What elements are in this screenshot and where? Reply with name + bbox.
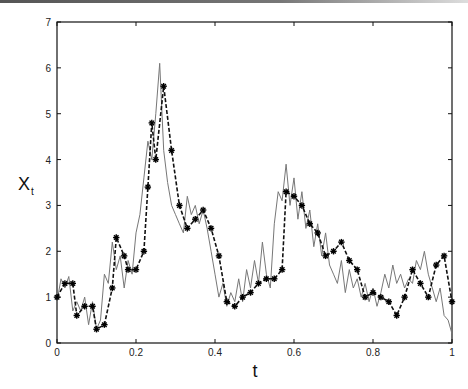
y-axis-label: X: [18, 174, 30, 194]
star-marker: [315, 230, 321, 236]
series-group: [54, 63, 455, 334]
star-marker: [54, 294, 60, 300]
y-tick-label: 6: [45, 63, 51, 74]
star-marker: [247, 289, 253, 295]
star-marker: [70, 280, 76, 286]
star-marker: [417, 280, 423, 286]
star-marker: [299, 202, 305, 208]
axis-ticks: 00.20.40.60.8101234567: [45, 17, 455, 358]
star-marker: [89, 303, 95, 309]
star-marker: [330, 248, 336, 254]
star-marker: [370, 289, 376, 295]
x-tick-label: 0.4: [208, 347, 222, 358]
star-marker: [354, 266, 360, 272]
y-tick-label: 4: [45, 155, 51, 166]
y-tick-label: 1: [45, 292, 51, 303]
star-marker: [401, 294, 407, 300]
star-marker: [101, 321, 107, 327]
star-marker: [109, 285, 115, 291]
y-tick-label: 5: [45, 109, 51, 120]
star-marker: [200, 207, 206, 213]
star-marker: [271, 276, 277, 282]
star-marker: [283, 188, 289, 194]
star-marker: [160, 83, 166, 89]
plot-border: [57, 22, 452, 343]
star-marker: [425, 294, 431, 300]
x-tick-label: 1: [449, 347, 455, 358]
y-tick-label: 0: [45, 338, 51, 349]
star-marker: [378, 294, 384, 300]
x-tick-label: 0.8: [366, 347, 380, 358]
star-marker: [263, 276, 269, 282]
star-marker: [62, 280, 68, 286]
star-marker: [322, 253, 328, 259]
x-tick-label: 0: [54, 347, 60, 358]
star-marker: [255, 280, 261, 286]
plot-frame: [57, 22, 452, 343]
star-marker: [125, 266, 131, 272]
line-chart: 00.20.40.60.8101234567 t X t: [0, 0, 468, 389]
star-marker: [121, 253, 127, 259]
star-marker: [74, 312, 80, 318]
star-marker: [232, 303, 238, 309]
star-marker: [168, 147, 174, 153]
star-marker: [149, 120, 155, 126]
star-marker: [449, 299, 455, 305]
star-marker: [93, 326, 99, 332]
x-tick-label: 0.2: [129, 347, 143, 358]
star-marker: [239, 294, 245, 300]
star-marker: [81, 303, 87, 309]
star-marker: [145, 184, 151, 190]
star-marker: [346, 257, 352, 263]
star-marker: [113, 234, 119, 240]
star-marker: [338, 239, 344, 245]
x-axis-label: t: [252, 361, 257, 381]
x-tick-label: 0.6: [287, 347, 301, 358]
y-tick-label: 2: [45, 246, 51, 257]
series-line-0: [57, 63, 452, 334]
star-marker: [433, 262, 439, 268]
series-line-1: [57, 86, 452, 329]
y-axis-label-subscript: t: [31, 186, 34, 197]
star-marker: [279, 266, 285, 272]
star-marker: [394, 312, 400, 318]
star-marker: [409, 266, 415, 272]
star-marker: [291, 193, 297, 199]
star-marker: [176, 202, 182, 208]
y-tick-label: 3: [45, 200, 51, 211]
star-marker: [153, 156, 159, 162]
star-marker: [224, 299, 230, 305]
star-marker: [216, 253, 222, 259]
y-tick-label: 7: [45, 17, 51, 28]
star-marker: [386, 299, 392, 305]
star-marker: [441, 253, 447, 259]
star-marker: [362, 294, 368, 300]
star-marker: [307, 221, 313, 227]
star-marker: [141, 248, 147, 254]
star-marker: [133, 266, 139, 272]
star-marker: [208, 225, 214, 231]
star-marker: [184, 225, 190, 231]
star-marker: [192, 216, 198, 222]
